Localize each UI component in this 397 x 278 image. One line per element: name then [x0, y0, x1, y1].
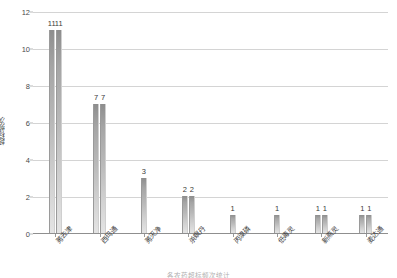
bar: 1	[315, 215, 321, 234]
bar-group: 1	[211, 12, 255, 233]
x-axis-label-cell: 莠灭净	[122, 238, 166, 268]
bar: 11	[56, 30, 62, 234]
bar: 3	[141, 178, 147, 234]
chart-caption: 各农药超标频次统计	[0, 270, 397, 278]
bar-value-label: 1	[367, 204, 371, 213]
x-axis-labels: 莠去津西玛通莠灭净杀螟丹丙溴磷低毒灵新燕灵麦达通	[33, 238, 388, 268]
bar: 2	[189, 196, 195, 233]
bar: 1	[366, 215, 372, 234]
bar-group: 22	[166, 12, 210, 233]
bar: 7	[93, 104, 99, 234]
bar-value-label: 3	[142, 167, 146, 176]
bar-group: 3	[122, 12, 166, 233]
bar: 1	[274, 215, 280, 234]
plot-area: 024681012 111177322111111	[33, 12, 388, 234]
bar-value-label: 1	[275, 204, 279, 213]
bar-value-label: 2	[190, 185, 194, 194]
bar: 11	[49, 30, 55, 234]
x-axis-label-cell: 麦达通	[344, 238, 388, 268]
x-axis-label-cell: 低毒灵	[255, 238, 299, 268]
x-axis-label-cell: 新燕灵	[299, 238, 343, 268]
x-axis-label-cell: 丙溴磷	[211, 238, 255, 268]
bar: 2	[182, 196, 188, 233]
bar-group: 1	[255, 12, 299, 233]
bar-value-label: 11	[55, 19, 63, 28]
bar-group: 11	[299, 12, 343, 233]
bar-value-label: 1	[323, 204, 327, 213]
y-axis-title: 超标频次	[0, 96, 12, 166]
bar: 1	[230, 215, 236, 234]
y-axis-tick-label: 12	[22, 8, 30, 17]
bar-series: 111177322111111	[33, 12, 388, 233]
bar: 7	[100, 104, 106, 234]
x-axis-label-cell: 西玛通	[77, 238, 121, 268]
y-axis-tick-label: 10	[22, 45, 30, 54]
bar: 1	[322, 215, 328, 234]
bar-value-label: 1	[360, 204, 364, 213]
bar-value-label: 7	[94, 93, 98, 102]
bar-value-label: 1	[316, 204, 320, 213]
bar: 1	[359, 215, 365, 234]
bar-value-label: 2	[183, 185, 187, 194]
x-axis-label-cell: 莠去津	[33, 238, 77, 268]
bar-group: 1111	[33, 12, 77, 233]
bar-value-label: 1	[231, 204, 235, 213]
bar-group: 11	[344, 12, 388, 233]
bar-group: 77	[77, 12, 121, 233]
bar-value-label: 7	[101, 93, 105, 102]
x-axis-label-cell: 杀螟丹	[166, 238, 210, 268]
